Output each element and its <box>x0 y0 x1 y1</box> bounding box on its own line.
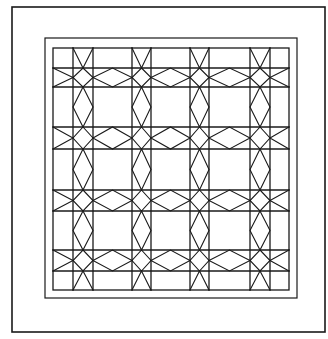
star-center-diamond <box>250 190 270 211</box>
horizontal-strip-diamond <box>151 127 190 149</box>
vertical-strip-diamond <box>190 211 209 250</box>
vertical-strip-diamond <box>250 211 270 250</box>
star-center-diamond <box>73 127 93 149</box>
horizontal-strip-diamond <box>151 250 190 271</box>
horizontal-strip-diamond <box>209 127 250 149</box>
horizontal-strip-diamond <box>209 190 250 211</box>
star-center-diamond <box>250 68 270 87</box>
rim-chevron-right <box>270 190 289 211</box>
horizontal-strip-diamond <box>151 190 190 211</box>
vertical-strip-diamond <box>73 149 93 190</box>
star-center-diamond <box>190 190 209 211</box>
rim-chevron-bottom <box>73 271 93 290</box>
rim-chevron-left <box>53 68 73 87</box>
horizontal-strip-diamond <box>93 127 132 149</box>
rim-chevron-left <box>53 127 73 149</box>
star-center-diamond <box>250 250 270 271</box>
vertical-strip-diamond <box>190 149 209 190</box>
rim-chevron-top <box>250 48 270 68</box>
vertical-strip-diamond <box>132 87 151 127</box>
horizontal-strip-diamond <box>151 68 190 87</box>
vertical-strip-diamond <box>73 211 93 250</box>
rim-chevron-left <box>53 250 73 271</box>
rim-chevron-bottom <box>190 271 209 290</box>
star-motifs <box>53 48 289 290</box>
horizontal-strip-diamond <box>93 190 132 211</box>
vertical-strip-diamond <box>250 87 270 127</box>
horizontal-strip-diamond <box>209 250 250 271</box>
inner-border-rect <box>45 38 297 298</box>
star-center-diamond <box>132 250 151 271</box>
vertical-strip-diamond <box>132 149 151 190</box>
rim-chevron-top <box>73 48 93 68</box>
grid-outline <box>53 48 289 290</box>
quilt-pattern-svg <box>0 0 328 339</box>
star-center-diamond <box>73 68 93 87</box>
rim-chevron-bottom <box>250 271 270 290</box>
star-center-diamond <box>73 250 93 271</box>
rim-chevron-bottom <box>132 271 151 290</box>
rim-chevron-right <box>270 250 289 271</box>
star-center-diamond <box>190 68 209 87</box>
vertical-strip-diamond <box>132 211 151 250</box>
star-center-diamond <box>132 68 151 87</box>
rim-chevron-top <box>132 48 151 68</box>
star-center-diamond <box>132 127 151 149</box>
rim-chevron-left <box>53 190 73 211</box>
inner-border <box>45 38 297 298</box>
outer-frame-rect <box>12 7 325 332</box>
rim-chevron-right <box>270 68 289 87</box>
sashing-grid <box>53 48 289 290</box>
horizontal-strip-diamond <box>209 68 250 87</box>
vertical-strip-diamond <box>250 149 270 190</box>
rim-chevron-right <box>270 127 289 149</box>
outer-frame <box>12 7 325 332</box>
star-center-diamond <box>132 190 151 211</box>
star-center-diamond <box>190 127 209 149</box>
vertical-strip-diamond <box>190 87 209 127</box>
quilt-diagram <box>0 0 328 339</box>
star-center-diamond <box>73 190 93 211</box>
star-center-diamond <box>250 127 270 149</box>
star-center-diamond <box>190 250 209 271</box>
rim-chevron-top <box>190 48 209 68</box>
horizontal-strip-diamond <box>93 68 132 87</box>
vertical-strip-diamond <box>73 87 93 127</box>
horizontal-strip-diamond <box>93 250 132 271</box>
